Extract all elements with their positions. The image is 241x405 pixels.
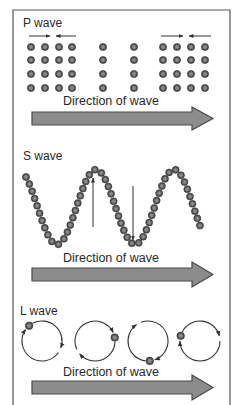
particle-dot [36,210,43,217]
particle-dot [74,200,81,207]
particle-dot [99,43,106,50]
particle-dot [159,70,166,77]
particle-dot [151,204,158,211]
particle-dot [159,84,166,91]
s-wave-particles [22,166,203,248]
particle-dot [41,224,48,231]
particle-dot [68,43,75,50]
particle-dot [187,56,194,63]
particle-dot [111,334,119,342]
particle-dot [41,84,48,91]
orbit-circle [75,321,118,361]
p-wave-particles [27,43,208,91]
particle-dot [26,181,33,188]
particle-dot [148,212,155,219]
particle-dot [143,226,150,233]
particle-dot [201,56,208,63]
particle-dot [68,84,75,91]
s-direction-label: Direction of wave [63,251,159,265]
particle-dot [77,192,84,199]
particle-dot [128,240,135,247]
particle-dot [146,357,154,365]
orbit-arc [180,341,220,361]
particle-dot [55,56,62,63]
l-wave-panel: L wave Direction of wave [20,304,220,400]
p-direction-arrow [32,107,213,130]
particle-dot [69,214,76,221]
particle-dot [189,200,196,207]
particle-dot [173,56,180,63]
particle-dot [130,56,137,63]
particle-dot [191,208,198,215]
particle-dot [146,219,153,226]
particle-dot [41,43,48,50]
particle-dot [181,179,188,186]
particle-dot [120,227,127,234]
orbit-circle [177,321,220,361]
particle-dot [68,70,75,77]
s-wave-label: S wave [23,149,63,163]
particle-dot [86,171,93,178]
particle-dot [135,239,142,246]
particle-dot [177,332,185,340]
particle-dot [48,238,55,245]
particle-dot [29,188,36,195]
orbit-circle [22,321,62,361]
particle-dot [55,43,62,50]
particle-dot [196,222,203,229]
particle-dot [124,234,131,241]
particle-dot [99,70,106,77]
orbit-arc [80,342,115,361]
particle-dot [27,56,34,63]
particle-dot [31,195,38,202]
orbit-arc [182,321,219,336]
particle-dot [72,207,79,214]
particle-dot [60,235,67,242]
orbit-circle [128,321,168,365]
particle-dot [22,173,29,180]
particle-dot [110,198,117,205]
particle-dot [187,43,194,50]
orbit-arc [33,321,62,348]
l-wave-orbits [22,321,220,365]
particle-dot [166,169,173,176]
orbit-arc [75,321,113,349]
particle-dot [39,217,46,224]
particle-dot [34,202,41,209]
particle-dot [156,190,163,197]
s-wave-panel: S wave Direction of wave [22,149,213,287]
p-direction-label: Direction of wave [63,94,159,108]
particle-dot [201,70,208,77]
particle-dot [130,43,137,50]
particle-dot [41,70,48,77]
particle-dot [184,186,191,193]
particle-dot [25,322,33,330]
particle-dot [115,212,122,219]
orbit-arc [22,330,58,361]
particle-dot [67,222,74,229]
particle-dot [98,169,105,176]
particle-dot [68,56,75,63]
particle-dot [105,183,112,190]
particle-dot [41,56,48,63]
particle-dot [158,182,165,189]
particle-dot [79,185,86,192]
particle-dot [186,193,193,200]
p-wave-panel: P wave Direction of wave [23,16,213,130]
particle-dot [130,70,137,77]
p-wave-label: P wave [23,16,62,30]
l-direction-label: Direction of wave [63,365,159,379]
particle-dot [130,84,137,91]
particle-dot [159,43,166,50]
particle-dot [102,176,109,183]
particle-dot [27,84,34,91]
particle-dot [55,70,62,77]
particle-dot [172,166,179,173]
particle-dot [55,84,62,91]
seismic-waves-diagram: P wave Direction of wave S wave Directio… [0,0,241,405]
orbit-arc [128,325,146,361]
particle-dot [187,84,194,91]
particle-dot [113,205,120,212]
particle-dot [173,43,180,50]
l-wave-label: L wave [20,304,58,318]
